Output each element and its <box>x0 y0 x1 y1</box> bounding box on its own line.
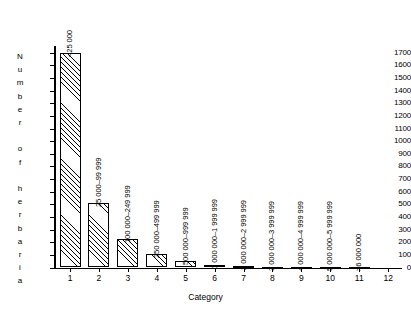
bar-value-label: 2 000 000–2 999 999 <box>240 200 248 270</box>
x-axis-tick <box>186 268 187 272</box>
y-axis-tick <box>50 65 55 66</box>
y-axis-tick <box>50 91 55 92</box>
y-axis-tick <box>50 129 55 130</box>
y-axis-title-letter: e <box>14 195 26 208</box>
y-axis-tick <box>50 53 55 54</box>
y-axis-tick-label: 700 <box>365 175 411 183</box>
y-axis-tick <box>50 255 55 256</box>
y-axis-tick <box>50 268 55 269</box>
x-axis-tick-label: 2 <box>90 274 108 283</box>
y-axis-tick-label: 600 <box>365 188 411 196</box>
y-axis-tick <box>50 103 55 104</box>
bar <box>117 239 138 267</box>
y-axis-title-letter <box>14 169 26 182</box>
y-axis-tick <box>50 242 55 243</box>
x-axis-tick-label: 8 <box>263 274 281 283</box>
x-axis-tick-label: 4 <box>148 274 166 283</box>
y-axis-tick-label: 1300 <box>365 99 411 107</box>
y-axis-title-letter: b <box>14 90 26 103</box>
y-axis-tick-label: 1700 <box>365 49 411 57</box>
bar <box>88 203 109 267</box>
x-axis-tick <box>388 268 389 272</box>
x-axis-tick <box>128 268 129 272</box>
y-axis-title-letter: r <box>14 248 26 261</box>
y-axis-tick <box>50 116 55 117</box>
bar-value-label: 500 000–999 999 <box>182 208 190 266</box>
y-axis-title-letter: h <box>14 182 26 195</box>
y-axis-tick-label: 900 <box>365 150 411 158</box>
y-axis-tick <box>50 141 55 142</box>
x-axis-tick-label: 6 <box>206 274 224 283</box>
bar-value-label: 4 000 000–4 999 999 <box>297 201 305 271</box>
bar-value-label: 1 000 000–1 999 999 <box>211 199 219 269</box>
x-axis-tick-label: 10 <box>321 274 339 283</box>
bar <box>60 53 81 268</box>
y-axis-tick <box>50 179 55 180</box>
y-axis-title-letter: f <box>14 156 26 169</box>
y-axis-tick <box>50 204 55 205</box>
bar-value-label: <25 000 <box>66 30 74 57</box>
chart-figure: 0100200300400500600700800900100011001200… <box>0 0 411 318</box>
x-axis-tick-label: 9 <box>292 274 310 283</box>
y-axis-tick <box>50 192 55 193</box>
y-axis-tick <box>50 217 55 218</box>
x-axis-tick <box>70 268 71 272</box>
x-axis-tick-label: 1 <box>61 274 79 283</box>
x-axis-tick <box>99 268 100 272</box>
y-axis-tick-label: 100 <box>365 251 411 259</box>
y-axis-tick-label: 800 <box>365 162 411 170</box>
bar-value-label: 5 000 000–5 999 999 <box>326 201 334 271</box>
bar-value-label: 100 000–249 999 <box>124 185 132 243</box>
y-axis-tick-label: 1100 <box>365 125 411 133</box>
plot-area: 0100200300400500600700800900100011001200… <box>0 0 411 318</box>
y-axis-title-letter: r <box>14 208 26 221</box>
y-axis-tick-label: 400 <box>365 213 411 221</box>
y-axis-title-letter: e <box>14 103 26 116</box>
y-axis-tick-label: 300 <box>365 226 411 234</box>
x-axis-tick-label: 7 <box>235 274 253 283</box>
x-axis-tick-label: 12 <box>379 274 397 283</box>
bar-value-label: >6 000 000 <box>355 234 363 271</box>
y-axis-tick-label: 1000 <box>365 137 411 145</box>
bar-value-label: 25 000–99 999 <box>95 158 103 207</box>
y-axis-title-letter: u <box>14 63 26 76</box>
y-axis-title-letter: a <box>14 274 26 287</box>
y-axis-tick <box>50 78 55 79</box>
y-axis-title: Number of herbaria <box>14 50 26 288</box>
y-axis-tick-label: 1400 <box>365 87 411 95</box>
y-axis-tick-label: 1200 <box>365 112 411 120</box>
y-axis-tick <box>50 230 55 231</box>
bar-value-label: 250 000–499 999 <box>153 201 161 259</box>
y-axis-title-letter <box>14 129 26 142</box>
y-axis-tick <box>50 154 55 155</box>
y-axis-tick <box>50 166 55 167</box>
y-axis-tick-label: 200 <box>365 238 411 246</box>
x-axis-tick <box>157 268 158 272</box>
y-axis-tick-label: 1500 <box>365 74 411 82</box>
y-axis-title-letter: i <box>14 261 26 274</box>
x-axis-title: Category <box>0 292 411 302</box>
y-axis-title-letter: r <box>14 116 26 129</box>
x-axis-tick-label: 3 <box>119 274 137 283</box>
y-axis-tick-label: 500 <box>365 200 411 208</box>
y-axis-title-letter: b <box>14 222 26 235</box>
y-axis-title-letter: a <box>14 235 26 248</box>
y-axis-title-letter: o <box>14 142 26 155</box>
y-axis-tick-label: 1600 <box>365 61 411 69</box>
y-axis-title-letter: N <box>14 50 26 63</box>
x-axis-tick-label: 11 <box>350 274 368 283</box>
x-axis-tick-label: 5 <box>177 274 195 283</box>
y-axis-title-letter: m <box>14 76 26 89</box>
bar-value-label: 3 000 000–3 999 999 <box>268 201 276 271</box>
